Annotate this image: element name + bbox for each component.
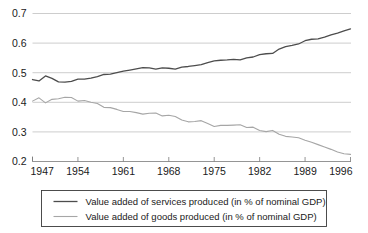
y-axis-tick-labels: 0.70.60.50.40.30.2 — [12, 7, 27, 167]
y-tick-label: 0.2 — [12, 155, 27, 167]
legend-label-goods: Value added of goods produced (in % of n… — [86, 211, 317, 222]
x-tick-label: 1961 — [112, 165, 136, 177]
x-tick-label: 1996 — [329, 165, 353, 177]
y-tick-label: 0.5 — [12, 67, 27, 79]
x-tick-label: 1989 — [293, 165, 317, 177]
x-tick-label: 1982 — [248, 165, 272, 177]
x-tick-label: 1975 — [203, 165, 227, 177]
x-tick-label: 1968 — [157, 165, 181, 177]
y-tick-label: 0.3 — [12, 126, 27, 138]
chart-legend: Value added of services produced (in % o… — [42, 191, 327, 227]
data-series — [33, 29, 351, 155]
chart-container: 0.70.60.50.40.30.2 194719541961196819751… — [0, 0, 368, 233]
x-tick-label: 1954 — [66, 165, 90, 177]
x-axis-tick-labels: 19471954196119681975198219891996 — [31, 165, 353, 177]
legend-label-services: Value added of services produced (in % o… — [86, 196, 326, 207]
series-line-services — [33, 29, 351, 82]
x-tick-label: 1947 — [31, 165, 55, 177]
axes — [33, 157, 352, 162]
gridlines — [33, 14, 352, 132]
series-line-goods — [33, 97, 351, 154]
y-tick-label: 0.7 — [12, 7, 27, 19]
line-chart: 0.70.60.50.40.30.2 194719541961196819751… — [0, 0, 368, 233]
y-tick-label: 0.6 — [12, 37, 27, 49]
y-tick-label: 0.4 — [12, 96, 27, 108]
